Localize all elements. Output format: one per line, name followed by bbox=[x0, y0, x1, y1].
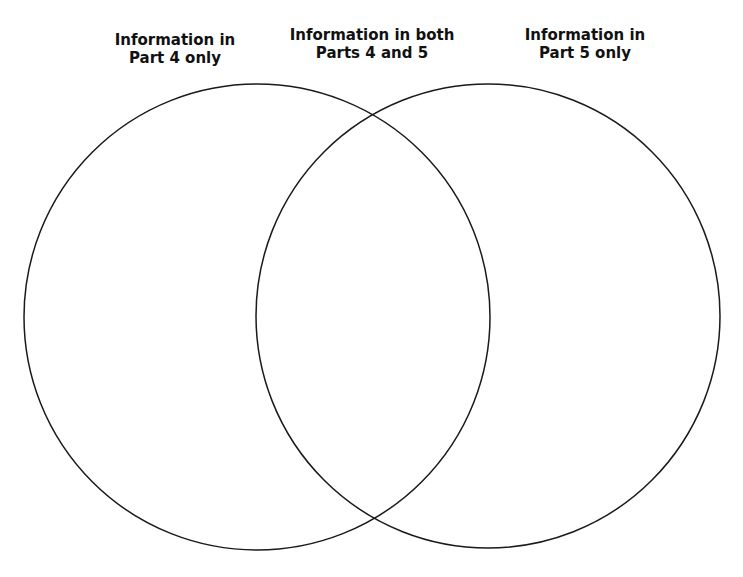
circle-part-5 bbox=[256, 84, 720, 548]
circle-part-4 bbox=[24, 84, 490, 550]
venn-diagram bbox=[0, 0, 743, 577]
